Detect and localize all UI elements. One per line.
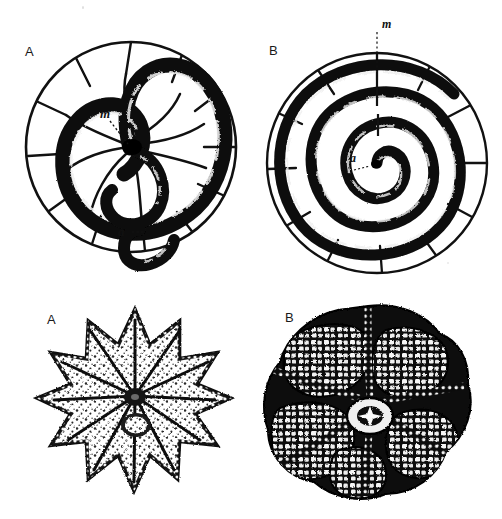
label-m: m [382, 17, 391, 31]
panel-label-top-left: A [25, 45, 34, 58]
central-boss [124, 388, 146, 406]
panel-label-bottom-left: A [47, 313, 56, 326]
label-a: a [350, 151, 356, 165]
panel-label-bottom-right: B [285, 311, 294, 324]
panel-label-top-right: B [269, 44, 278, 57]
illustration-plate: m a A [0, 0, 502, 519]
figure-bottom-left-stellate-test [30, 300, 240, 500]
figure-bottom-right-lobate-test [258, 300, 478, 505]
aperture [347, 398, 393, 434]
proloculus [122, 139, 142, 155]
label-m: m [100, 106, 110, 121]
scan-speck [82, 6, 84, 9]
scan-speck [447, 262, 449, 264]
label-a: a [118, 224, 125, 239]
aperture [121, 413, 151, 437]
figure-top-left-planispiral-section: m a [14, 16, 249, 278]
proloculus [371, 160, 381, 169]
figure-top-right-planispiral-section: a m [258, 6, 496, 282]
